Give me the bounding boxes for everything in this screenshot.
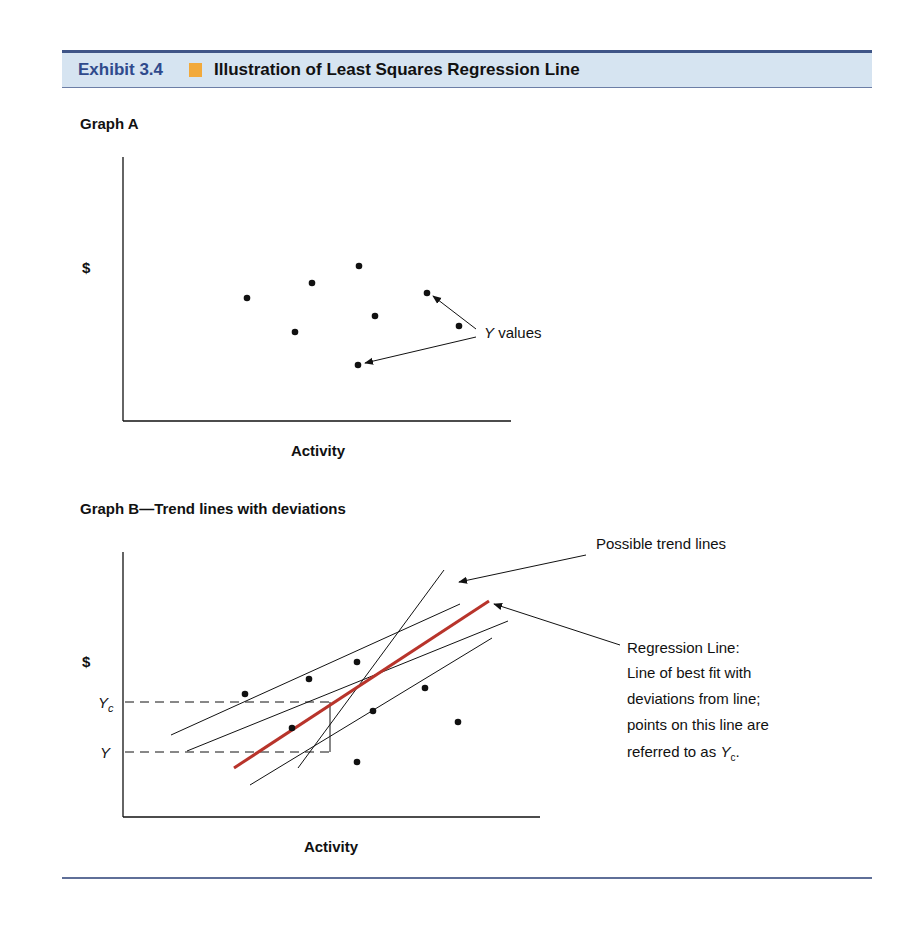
graph-b-x-label: Activity [304, 838, 359, 855]
y-values-arrow-lower [365, 337, 476, 363]
graph-a: $ Activity Y values [82, 157, 542, 459]
y-values-arrow-upper [433, 296, 476, 329]
possible-trend-lines-label: Possible trend lines [596, 535, 726, 552]
figure-canvas: $ Activity Y values $ Activity Yc Y [0, 0, 909, 928]
regression-arrow [494, 604, 620, 645]
svg-text:deviations from line;: deviations from line; [627, 690, 760, 707]
graph-b: $ Activity Yc Y Possible trend lines [82, 535, 769, 855]
yc-label: Yc [98, 694, 114, 714]
graph-b-points [242, 659, 462, 766]
possible-trend-lines [171, 570, 508, 785]
regression-annotation: Regression Line: Line of best fit with d… [627, 639, 769, 763]
regression-line [234, 601, 489, 768]
svg-text:Regression Line:: Regression Line: [627, 639, 740, 656]
bottom-rule [62, 877, 872, 879]
y-label: Y [100, 744, 111, 761]
y-values-label: Y values [484, 324, 542, 341]
graph-a-y-label: $ [82, 259, 91, 276]
graph-a-points [244, 263, 463, 369]
svg-text:points on this line are: points on this line are [627, 716, 769, 733]
graph-a-x-label: Activity [291, 442, 346, 459]
svg-text:referred to as Yc.: referred to as Yc. [627, 743, 740, 763]
svg-text:Line of best fit with: Line of best fit with [627, 664, 751, 681]
graph-b-y-label: $ [82, 653, 91, 670]
trend-lines-arrow [459, 555, 586, 582]
